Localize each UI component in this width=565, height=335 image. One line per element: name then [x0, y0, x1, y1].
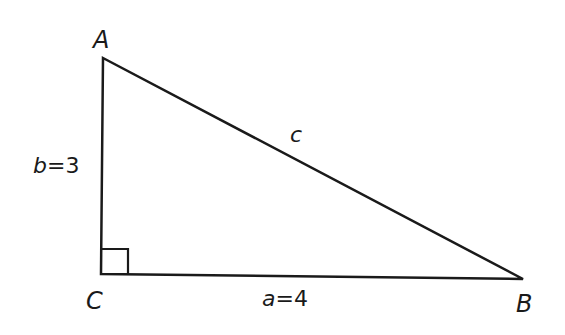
side-b-equals: = [47, 153, 65, 178]
side-label-c: c [290, 124, 302, 146]
right-triangle-diagram: A B C b=3 a=4 c [0, 0, 565, 335]
side-label-b: b=3 [33, 155, 79, 177]
vertex-label-a: A [93, 28, 109, 52]
right-angle-marker [101, 249, 128, 274]
side-a-equals: = [275, 286, 293, 311]
side-a-variable: a [262, 286, 275, 311]
side-label-a: a=4 [262, 288, 308, 310]
vertex-label-b: B [516, 292, 532, 316]
side-b-variable: b [33, 153, 47, 178]
side-b-value: 3 [65, 153, 79, 178]
vertex-label-c: C [86, 289, 103, 313]
side-a-value: 4 [294, 286, 308, 311]
triangle-svg [0, 0, 565, 335]
triangle-abc [101, 58, 523, 279]
